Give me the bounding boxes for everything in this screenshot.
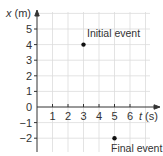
y-tick-labels: 5 4 3 2 1 0 −1 −2	[19, 23, 32, 144]
initial-event-point	[81, 42, 85, 46]
svg-text:3: 3	[80, 110, 86, 122]
final-event-point	[112, 136, 116, 140]
initial-event-label: Initial event	[87, 27, 140, 39]
svg-text:5: 5	[111, 110, 117, 122]
svg-text:1: 1	[26, 85, 32, 97]
svg-text:2: 2	[65, 110, 71, 122]
svg-text:6: 6	[127, 110, 133, 122]
svg-text:5: 5	[26, 23, 32, 35]
x-tick-labels: 1 2 3 4 5 6	[49, 110, 133, 122]
y-axis-arrow-icon	[35, 10, 39, 16]
svg-text:−1: −1	[19, 117, 32, 129]
svg-text:2: 2	[26, 70, 32, 82]
svg-text:1: 1	[49, 110, 55, 122]
final-event-label: Final event	[111, 142, 162, 154]
svg-text:0: 0	[26, 101, 32, 113]
y-axis-label: x(m)	[5, 7, 31, 19]
svg-text:−2: −2	[19, 132, 32, 144]
x-axis-arrow-icon	[154, 105, 160, 109]
position-time-chart: x(m) 5 4 3 2 1 0 −1 −2 1 2 3 4 5 6 t(s) …	[0, 0, 163, 156]
svg-text:4: 4	[96, 110, 102, 122]
x-axis-label: t(s)	[139, 110, 158, 122]
svg-text:4: 4	[26, 39, 32, 51]
svg-text:3: 3	[26, 54, 32, 66]
